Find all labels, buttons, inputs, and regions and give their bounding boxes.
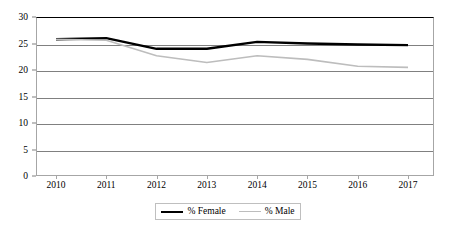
x-tick-label: 2016 [348, 179, 367, 191]
series-layer [36, 17, 434, 176]
y-tick-label: 10 [19, 118, 29, 128]
y-axis: 051015202530 [0, 0, 34, 193]
x-tick-mark [106, 176, 107, 179]
x-tick-label: 2011 [97, 179, 116, 191]
series-line-female [56, 38, 408, 49]
y-tick-label: 25 [19, 39, 29, 49]
legend-swatch-female-icon [161, 211, 183, 213]
x-tick-mark [207, 176, 208, 179]
y-tick-label: 30 [19, 12, 29, 22]
x-tick-mark [257, 176, 258, 179]
legend-label-male: % Male [265, 206, 295, 217]
x-tick-label: 2012 [147, 179, 166, 191]
x-tick-mark [358, 176, 359, 179]
y-tick-label: 15 [19, 92, 29, 102]
line-chart: 051015202530 201020112012201320142015201… [0, 0, 450, 234]
x-axis: 20102011201220132014201520162017 [36, 179, 434, 195]
y-tick-label: 0 [23, 171, 28, 181]
legend-label-female: % Female [187, 206, 225, 217]
x-tick-mark [56, 176, 57, 179]
x-tick-label: 2017 [399, 179, 418, 191]
x-tick-label: 2013 [197, 179, 216, 191]
chart-legend: % Female % Male [155, 203, 301, 220]
legend-swatch-male-icon [239, 211, 261, 212]
legend-entry-female[interactable]: % Female [161, 206, 225, 217]
x-tick-mark [307, 176, 308, 179]
legend-entry-male[interactable]: % Male [239, 206, 295, 217]
y-tick-label: 20 [19, 65, 29, 75]
x-tick-mark [408, 176, 409, 179]
x-tick-label: 2010 [47, 179, 66, 191]
x-tick-label: 2014 [248, 179, 267, 191]
x-tick-label: 2015 [298, 179, 317, 191]
x-tick-mark [157, 176, 158, 179]
y-tick-label: 5 [23, 145, 28, 155]
